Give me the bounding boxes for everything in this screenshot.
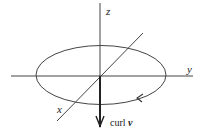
curl-diagram: z y x curl v — [0, 0, 204, 134]
x-axis-label: x — [56, 103, 62, 115]
curl-label-variable: v — [128, 117, 133, 128]
curl-label-prefix: curl — [110, 117, 126, 128]
y-axis-label: y — [186, 63, 192, 75]
curl-vector-label: curl v — [110, 117, 133, 128]
z-axis-label: z — [105, 5, 111, 17]
